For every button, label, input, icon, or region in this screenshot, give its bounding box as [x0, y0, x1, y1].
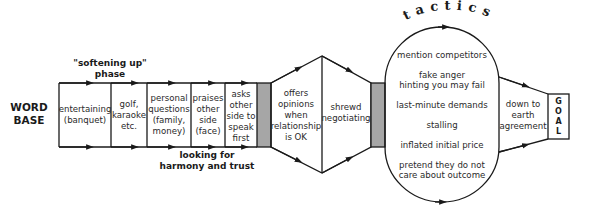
svg-text:other: other: [230, 100, 253, 110]
svg-text:shrewd: shrewd: [330, 102, 361, 112]
gray-transition-block-2: [371, 83, 385, 147]
svg-text:speak: speak: [228, 122, 253, 132]
svg-text:money): money): [153, 126, 186, 136]
tactic-care-about-outcome: care about outcome: [399, 170, 486, 180]
phase-box-asks-other-side: asks other side to speak first: [227, 89, 256, 143]
word-base-label: WORD BASE: [10, 101, 48, 126]
tactic-fake-anger: fake anger: [419, 70, 465, 80]
gray-transition-block-1: [257, 83, 271, 147]
svg-text:A: A: [555, 117, 562, 126]
agreement-trapezoid: down to earth agreement: [499, 77, 548, 152]
svg-text:agreement: agreement: [499, 121, 547, 131]
svg-text:offers: offers: [284, 88, 309, 98]
negotiation-process-diagram: WORD BASE "softening up" phase looking f…: [0, 0, 593, 218]
goal-box: G O A L: [548, 94, 569, 139]
svg-text:opinions: opinions: [278, 99, 315, 109]
phase-boxes: entertaining (banquet) golf, karaoke etc…: [59, 83, 271, 147]
tactic-last-minute-demands: last-minute demands: [396, 100, 488, 110]
tactic-mention-competitors: mention competitors: [397, 50, 487, 60]
svg-text:when: when: [284, 110, 307, 120]
svg-text:questions: questions: [148, 104, 190, 114]
harmony-trust-label: looking for harmony and trust: [160, 150, 255, 171]
svg-text:relationship: relationship: [271, 121, 322, 131]
phase-box-golf: golf, karaoke etc.: [112, 99, 146, 131]
svg-text:golf,: golf,: [120, 99, 139, 109]
svg-text:earth: earth: [512, 110, 535, 120]
tactic-stalling: stalling: [426, 120, 457, 130]
svg-text:harmony and trust: harmony and trust: [160, 161, 255, 171]
svg-text:phase: phase: [95, 69, 125, 79]
svg-text:G: G: [555, 97, 562, 106]
svg-text:asks: asks: [231, 89, 251, 99]
svg-text:down to: down to: [506, 99, 541, 109]
tactic-inflated-price: inflated initial price: [400, 140, 483, 150]
svg-text:side: side: [199, 115, 217, 125]
tactic-hinting-fail: hinting you may fail: [399, 80, 485, 90]
tactics-title: tactics: [400, 0, 498, 23]
offers-opinions-text: offers opinions when relationship is OK: [271, 88, 322, 142]
svg-text:personal: personal: [150, 93, 187, 103]
svg-text:side to: side to: [227, 111, 256, 121]
svg-text:etc.: etc.: [121, 121, 137, 131]
svg-text:first: first: [233, 133, 250, 143]
svg-text:is OK: is OK: [285, 132, 307, 142]
svg-text:(family,: (family,: [153, 115, 186, 125]
phase-box-personal-questions: personal questions (family, money): [148, 93, 190, 136]
svg-text:karaoke: karaoke: [112, 110, 146, 120]
svg-text:entertaining: entertaining: [59, 104, 112, 114]
svg-text:looking for: looking for: [179, 150, 235, 160]
phase-box-praises: praises other side (face): [193, 93, 224, 136]
svg-text:L: L: [556, 127, 561, 136]
tactics-loop: tactics mention competitors fake anger h…: [385, 0, 505, 202]
softening-up-phase-label: "softening up" phase: [73, 58, 147, 79]
svg-text:negotiating: negotiating: [321, 113, 370, 123]
svg-text:(banquet): (banquet): [64, 115, 106, 125]
svg-text:O: O: [555, 107, 562, 116]
shrewd-negotiating-text: shrewd negotiating: [321, 102, 370, 123]
svg-text:other: other: [197, 104, 220, 114]
svg-text:(face): (face): [195, 126, 220, 136]
negotiation-hexagon: offers opinions when relationship is OK …: [271, 56, 371, 173]
svg-text:"softening up": "softening up": [73, 58, 147, 68]
svg-text:praises: praises: [193, 93, 224, 103]
svg-text:WORD: WORD: [10, 101, 48, 113]
phase-box-entertaining: entertaining (banquet): [59, 104, 112, 125]
svg-text:BASE: BASE: [14, 114, 45, 126]
tactic-pretend-not-care: pretend they do not: [399, 160, 485, 170]
